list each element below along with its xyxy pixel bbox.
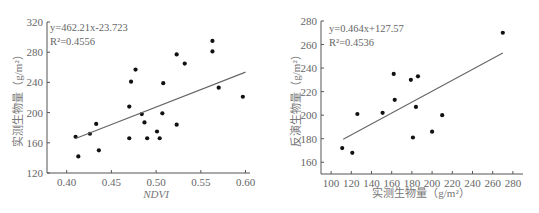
chart-left-canvas: 0.400.450.500.550.60120160200240280320 y… bbox=[0, 0, 270, 213]
data-point bbox=[76, 154, 80, 158]
y-tick-label: 240 bbox=[301, 62, 318, 74]
data-point bbox=[350, 151, 354, 155]
data-point bbox=[381, 111, 385, 115]
data-point bbox=[355, 112, 359, 116]
y-tick-label: 260 bbox=[301, 39, 318, 51]
data-point bbox=[158, 136, 162, 140]
y-tick-label: 280 bbox=[301, 15, 318, 27]
data-point bbox=[161, 81, 165, 85]
x-tick-label: 0.50 bbox=[146, 176, 166, 188]
data-point bbox=[160, 111, 164, 115]
x-tick-label: 0.60 bbox=[236, 176, 256, 188]
data-point bbox=[411, 135, 415, 139]
data-point bbox=[430, 130, 434, 134]
x-tick-label: 120 bbox=[343, 177, 360, 189]
y-tick-label: 200 bbox=[27, 107, 44, 119]
data-point bbox=[133, 67, 137, 71]
y-tick-label: 160 bbox=[27, 137, 44, 149]
data-point bbox=[416, 74, 420, 78]
data-point bbox=[210, 49, 214, 53]
y-tick-label: 120 bbox=[27, 167, 44, 179]
y-tick-label: 240 bbox=[27, 76, 44, 88]
data-point bbox=[414, 105, 418, 109]
data-point bbox=[94, 122, 98, 126]
data-point bbox=[127, 136, 131, 140]
x-tick-label: 0.40 bbox=[57, 176, 77, 188]
regression-line bbox=[76, 72, 246, 138]
x-tick-label: 280 bbox=[505, 177, 522, 189]
r-squared-label: R²=0.4536 bbox=[329, 37, 374, 48]
data-points bbox=[340, 31, 505, 155]
data-point bbox=[340, 146, 344, 150]
x-tick-label: 100 bbox=[323, 177, 340, 189]
regression-line bbox=[343, 53, 503, 139]
ndvi-vs-measured-biomass-chart: 0.400.450.500.550.60120160200240280320 y… bbox=[0, 0, 270, 213]
chart-right-canvas: 1001201401601802002202402602801601802002… bbox=[270, 0, 539, 213]
data-point bbox=[393, 98, 397, 102]
regression-equation: y=462.21x-23.723 bbox=[50, 22, 128, 33]
regression-equation: y=0.464x+127.57 bbox=[329, 23, 404, 34]
data-point bbox=[145, 136, 149, 140]
data-point bbox=[210, 39, 214, 43]
data-point bbox=[241, 95, 245, 99]
x-tick-label: 260 bbox=[484, 177, 501, 189]
x-axis-label: 实测生物量（g/m²） bbox=[372, 186, 469, 199]
data-point bbox=[409, 78, 413, 82]
y-tick-label: 160 bbox=[301, 156, 318, 168]
data-point bbox=[142, 120, 146, 124]
data-point bbox=[501, 31, 505, 35]
x-axis-label: NDVI bbox=[142, 188, 170, 200]
x-tick-label: 0.55 bbox=[191, 176, 211, 188]
measured-vs-inverted-biomass-chart: 1001201401601802002202402602801601802002… bbox=[270, 0, 539, 213]
data-point bbox=[440, 113, 444, 117]
data-point bbox=[129, 80, 133, 84]
data-point bbox=[392, 72, 396, 76]
y-axis-label: 反演生物量（g/m²） bbox=[289, 49, 302, 146]
y-tick-label: 320 bbox=[27, 16, 44, 28]
x-tick-label: 0.45 bbox=[102, 176, 122, 188]
y-tick-label: 280 bbox=[27, 46, 44, 58]
y-axis-label: 实测生物量（g/m²） bbox=[11, 49, 24, 146]
data-point bbox=[155, 129, 159, 133]
data-point bbox=[183, 61, 187, 65]
r-squared-label: R²=0.4556 bbox=[50, 36, 95, 47]
data-point bbox=[217, 86, 221, 90]
y-tick-label: 180 bbox=[301, 133, 318, 145]
y-tick-label: 220 bbox=[301, 86, 318, 98]
data-point bbox=[175, 123, 179, 127]
data-points bbox=[74, 39, 245, 159]
data-point bbox=[97, 148, 101, 152]
data-point bbox=[127, 104, 131, 108]
data-point bbox=[175, 52, 179, 56]
y-tick-label: 200 bbox=[301, 109, 318, 121]
